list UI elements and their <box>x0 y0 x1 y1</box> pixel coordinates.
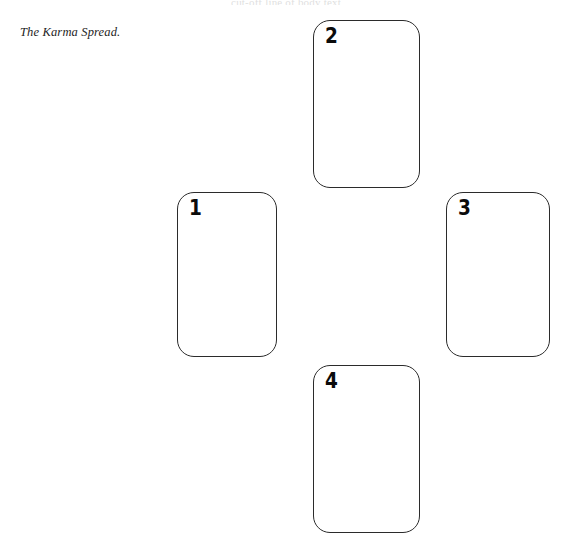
card-number-label: 2 <box>325 26 338 47</box>
clipped-text-line: cut-off line of body text <box>0 0 572 5</box>
card-number-label: 1 <box>189 198 202 219</box>
spread-card-3[interactable]: 3 <box>446 192 550 357</box>
spread-card-4[interactable]: 4 <box>313 365 420 533</box>
spread-card-1[interactable]: 1 <box>177 192 277 357</box>
card-number-label: 3 <box>458 198 471 219</box>
card-number-label: 4 <box>325 371 338 392</box>
spread-card-2[interactable]: 2 <box>313 20 420 188</box>
page-canvas: cut-off line of body text The Karma Spre… <box>0 0 572 554</box>
figure-caption: The Karma Spread. <box>20 25 120 40</box>
